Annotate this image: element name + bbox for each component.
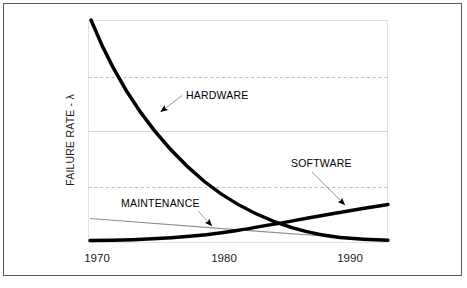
- series-label-maintenance: MAINTENANCE: [121, 197, 200, 209]
- figure-root: HARDWARE SOFTWARE MAINTENANCE FAILURE RA…: [0, 0, 467, 288]
- y-axis-title: FAILURE RATE - λ: [64, 94, 76, 186]
- series-label-hardware: HARDWARE: [186, 89, 248, 101]
- x-tick-label-1980: 1980: [211, 252, 237, 264]
- series-label-software: SOFTWARE: [291, 157, 352, 169]
- x-tick-label-1990: 1990: [337, 252, 363, 264]
- x-tick-label-1970: 1970: [84, 252, 110, 264]
- failure-rate-chart: HARDWARE SOFTWARE MAINTENANCE FAILURE RA…: [0, 0, 467, 288]
- x-axis-tick-labels: 1970 1980 1990: [84, 252, 363, 264]
